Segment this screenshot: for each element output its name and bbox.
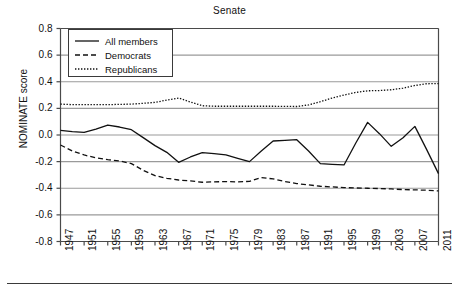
footer-rule <box>7 283 452 284</box>
legend-label-republicans: Republicans <box>105 64 157 75</box>
y-tick-label: -0.4 <box>19 183 53 193</box>
x-tick-label: 2011 <box>443 229 453 251</box>
x-tick-label: 1983 <box>277 228 287 250</box>
legend-item-democrats: Democrats <box>74 48 167 62</box>
x-tick-label: 1967 <box>183 228 193 250</box>
x-tick-label: 1991 <box>324 228 334 250</box>
x-tick-label: 1987 <box>301 228 311 250</box>
series-line-republicans <box>61 84 439 107</box>
y-tick-label: 0.8 <box>19 24 53 34</box>
x-tick-label: 2003 <box>395 228 405 250</box>
legend-swatch-dotted <box>74 63 100 75</box>
chart-legend: All members Democrats Republicans <box>68 29 173 77</box>
y-tick-label: 0.2 <box>19 103 53 113</box>
chart-figure: Senate NOMINATE score 0.80.60.40.20.0-0.… <box>0 0 459 295</box>
x-tick-label: 1947 <box>65 228 75 250</box>
legend-swatch-dashed <box>74 49 100 61</box>
x-tick-label: 1955 <box>112 228 122 250</box>
y-tick-label: 0.4 <box>19 77 53 87</box>
x-tick-label: 1963 <box>159 228 169 250</box>
legend-swatch-solid <box>74 35 100 47</box>
x-tick-label: 2007 <box>419 228 429 250</box>
legend-label-democrats: Democrats <box>105 50 151 61</box>
data-series-layer <box>61 84 439 191</box>
x-tick-label: 1971 <box>206 228 216 250</box>
y-tick-label: -0.6 <box>19 210 53 220</box>
x-tick-label: 1951 <box>88 228 98 250</box>
x-tick-label: 1975 <box>230 228 240 250</box>
legend-item-republicans: Republicans <box>74 62 167 76</box>
x-tick-label: 1959 <box>135 228 145 250</box>
x-tick-label: 1979 <box>254 228 264 250</box>
legend-label-all-members: All members <box>105 36 158 47</box>
y-tick-label: -0.2 <box>19 157 53 167</box>
x-tick-label: 1999 <box>372 228 382 250</box>
series-line-democrats <box>61 145 439 191</box>
y-tick-label: 0.0 <box>19 130 53 140</box>
y-tick-label: 0.6 <box>19 50 53 60</box>
legend-item-all-members: All members <box>74 34 167 48</box>
x-tick-label: 1995 <box>348 228 358 250</box>
y-tick-label: -0.8 <box>19 237 53 247</box>
series-line-all-members <box>61 122 439 173</box>
